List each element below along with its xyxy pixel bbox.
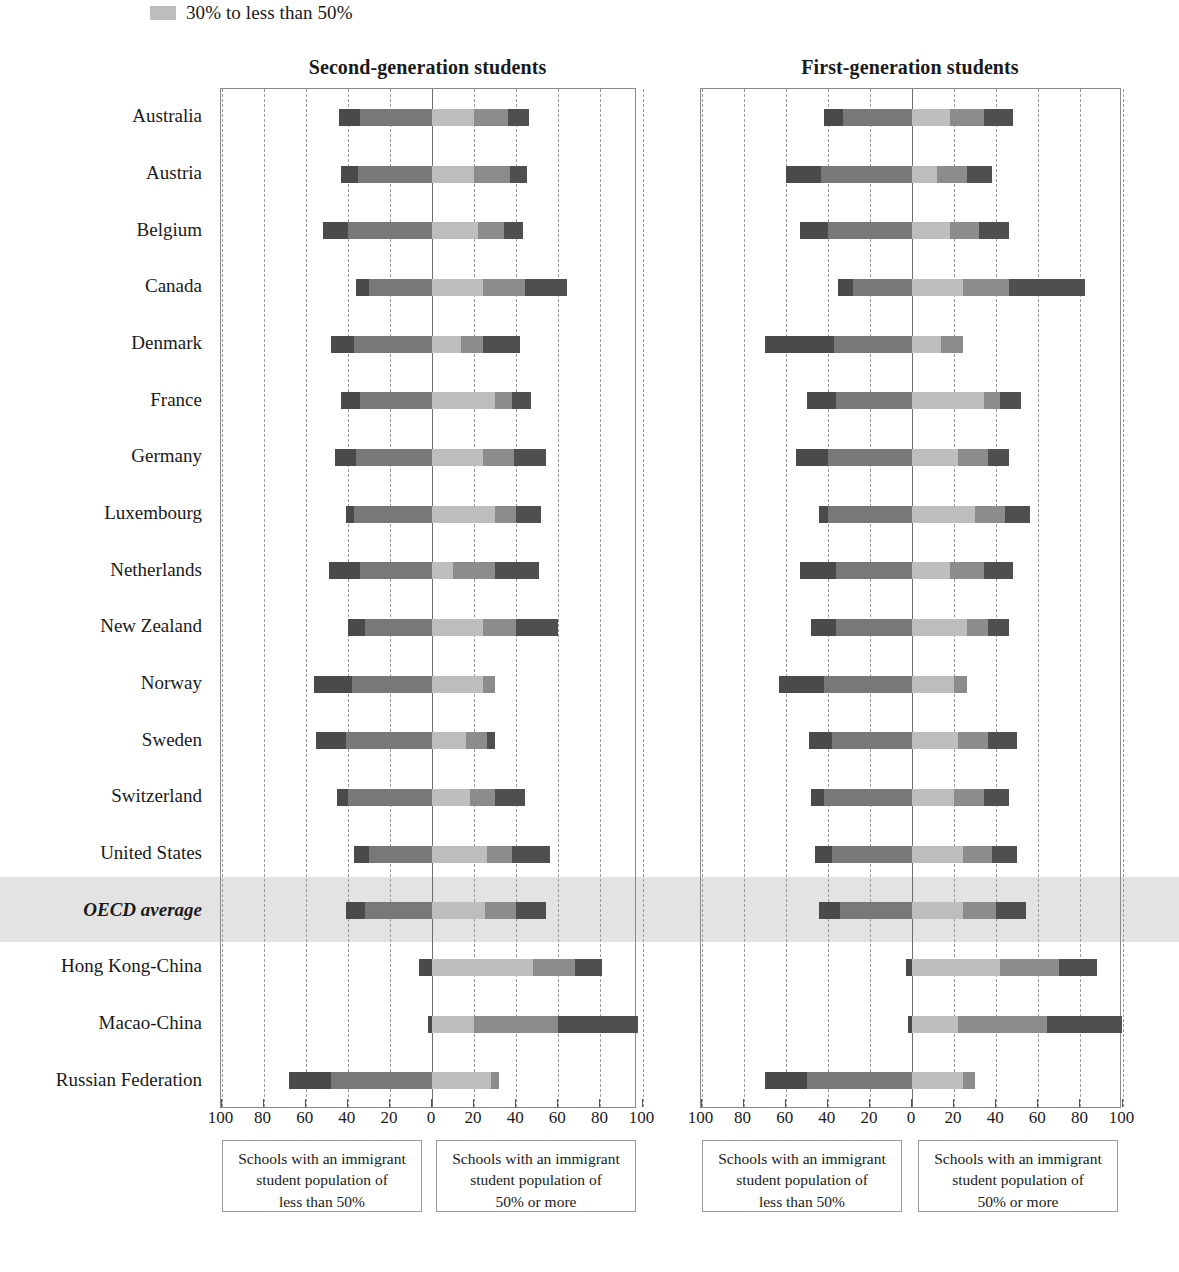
gridline-60 — [558, 89, 559, 1107]
bar-segment — [912, 732, 958, 749]
bar-segment — [432, 222, 478, 239]
bar-segment — [369, 846, 432, 863]
bar-segment — [958, 732, 987, 749]
legend-label: 30% to less than 50% — [186, 2, 353, 24]
x-axis-tickmark — [347, 1099, 348, 1107]
x-axis-tickmark — [869, 1099, 870, 1107]
bar-segment — [432, 902, 485, 919]
bar-segment — [483, 676, 496, 693]
bar-segment — [316, 732, 345, 749]
bar-segment — [912, 506, 975, 523]
bar-segment — [828, 449, 912, 466]
bar-segment — [912, 392, 984, 409]
gridline--80 — [264, 89, 265, 1107]
bar-segment — [432, 1072, 491, 1089]
note-line-3: less than 50% — [227, 1191, 417, 1212]
category-label-switzerland: Switzerland — [0, 786, 212, 805]
bar-segment — [483, 449, 515, 466]
bar-segment — [984, 392, 1001, 409]
gridline-80 — [600, 89, 601, 1107]
plot-area-first-generation — [700, 88, 1121, 1108]
x-axis-tickmark — [305, 1099, 306, 1107]
bar-segment — [912, 619, 967, 636]
bar-segment — [807, 392, 836, 409]
bar-segment — [314, 676, 352, 693]
bar-segment — [800, 562, 836, 579]
bar-segment — [912, 1072, 963, 1089]
x-axis-first-generation: 10080604020020406080100 — [700, 1108, 1121, 1130]
bar-segment — [811, 789, 824, 806]
bar-segment — [346, 902, 365, 919]
bar-segment — [912, 846, 963, 863]
bar-segment — [461, 336, 482, 353]
bar-segment — [765, 336, 834, 353]
x-axis-tick-label: 80 — [723, 1108, 763, 1128]
note-line-2: student population of — [441, 1169, 631, 1190]
bar-segment — [950, 562, 984, 579]
gridline--80 — [744, 89, 745, 1107]
bar-segment — [824, 109, 843, 126]
bar-segment — [912, 166, 937, 183]
note-line-3: 50% or more — [441, 1191, 631, 1212]
bar-segment — [765, 1072, 807, 1089]
x-axis-tickmark — [743, 1099, 744, 1107]
bar-segment — [992, 846, 1017, 863]
bar-segment — [958, 1016, 1046, 1033]
bar-segment — [912, 109, 950, 126]
bar-segment — [824, 676, 912, 693]
gridline--20 — [870, 89, 871, 1107]
bar-segment — [819, 902, 840, 919]
x-axis-tick-label: 100 — [681, 1108, 721, 1128]
bar-segment — [419, 959, 432, 976]
category-label-norway: Norway — [0, 673, 212, 692]
bar-segment — [525, 279, 567, 296]
bar-segment — [432, 392, 495, 409]
x-axis-tickmark — [515, 1099, 516, 1107]
panel-title-second-generation: Second-generation students — [220, 56, 635, 79]
bar-segment — [811, 619, 836, 636]
category-label-netherlands: Netherlands — [0, 560, 212, 579]
bar-segment — [954, 789, 983, 806]
x-axis-tickmark — [557, 1099, 558, 1107]
category-label-france: France — [0, 390, 212, 409]
bar-segment — [354, 336, 432, 353]
bar-segment — [337, 789, 348, 806]
bar-segment — [432, 1016, 474, 1033]
bar-segment — [483, 279, 525, 296]
bar-segment — [963, 1072, 976, 1089]
gridline--100 — [702, 89, 703, 1107]
legend: 30% to less than 50% — [150, 0, 353, 26]
note-line-2: student population of — [707, 1169, 897, 1190]
bar-segment — [912, 676, 954, 693]
x-axis-tick-label: 60 — [1017, 1108, 1057, 1128]
bar-segment — [331, 1072, 432, 1089]
bar-segment — [967, 619, 988, 636]
bar-segment — [470, 789, 495, 806]
x-axis-tick-label: 20 — [933, 1108, 973, 1128]
bar-segment — [487, 846, 512, 863]
bar-segment — [1059, 959, 1097, 976]
bar-segment — [912, 449, 958, 466]
bar-segment — [356, 449, 432, 466]
bar-segment — [996, 902, 1025, 919]
note-line-3: less than 50% — [707, 1191, 897, 1212]
bar-segment — [516, 506, 541, 523]
bar-segment — [807, 1072, 912, 1089]
gridline--60 — [306, 89, 307, 1107]
bar-segment — [474, 166, 510, 183]
bar-segment — [912, 562, 950, 579]
category-label-austria: Austria — [0, 163, 212, 182]
x-axis-tickmark — [953, 1099, 954, 1107]
bar-segment — [516, 619, 558, 636]
category-label-belgium: Belgium — [0, 220, 212, 239]
bar-segment — [339, 109, 360, 126]
bar-segment — [853, 279, 912, 296]
x-axis-tick-label: 100 — [622, 1108, 662, 1128]
category-label-denmark: Denmark — [0, 333, 212, 352]
bar-segment — [840, 902, 912, 919]
gridline-100 — [1123, 89, 1124, 1107]
plot-area-second-generation — [220, 88, 636, 1108]
category-label-new-zealand: New Zealand — [0, 616, 212, 635]
x-axis-tick-label: 0 — [411, 1108, 451, 1128]
bar-segment — [838, 279, 853, 296]
